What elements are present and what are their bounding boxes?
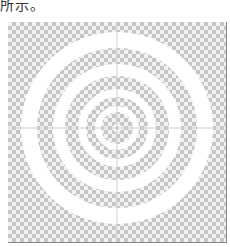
concentric-rings-figure (8, 22, 227, 243)
rings-graphic (8, 22, 226, 242)
caption-text: 所示。 (0, 0, 45, 14)
